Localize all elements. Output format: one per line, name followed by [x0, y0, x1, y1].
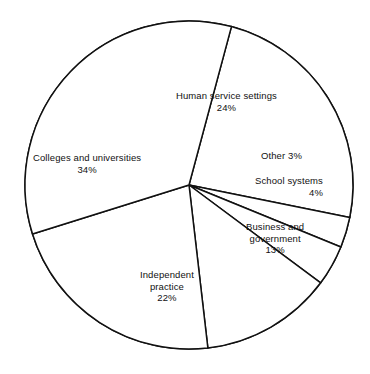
pie-label-independent-practice: Independent practice 22%: [140, 269, 194, 304]
pie-label-independent-practice-value: 22%: [140, 292, 194, 304]
pie-label-colleges-and-universities-value: 34%: [33, 164, 141, 176]
pie-chart-figure: Human service settings 24% Other 3% Scho…: [0, 0, 370, 374]
pie-label-independent-practice-name-2: practice: [140, 281, 194, 293]
pie-label-independent-practice-name-1: Independent: [140, 269, 194, 281]
pie-label-business-and-government-name-2: government: [246, 233, 304, 245]
pie-label-colleges-and-universities-name: Colleges and universities: [33, 152, 141, 164]
pie-label-business-and-government-value: 13%: [246, 244, 304, 256]
pie-label-business-and-government: Business and government 13%: [246, 221, 304, 256]
pie-label-human-service-settings-value: 24%: [176, 102, 277, 114]
pie-label-school-systems-value: 4%: [255, 187, 323, 199]
pie-label-human-service-settings: Human service settings 24%: [176, 90, 277, 113]
pie-label-other: Other 3%: [261, 150, 302, 162]
pie-label-school-systems: School systems 4%: [255, 175, 323, 198]
pie-label-school-systems-name: School systems: [255, 175, 323, 187]
pie-label-other-name-value: Other 3%: [261, 150, 302, 162]
pie-label-human-service-settings-name: Human service settings: [176, 90, 277, 102]
pie-label-business-and-government-name-1: Business and: [246, 221, 304, 233]
pie-label-colleges-and-universities: Colleges and universities 34%: [33, 152, 141, 175]
